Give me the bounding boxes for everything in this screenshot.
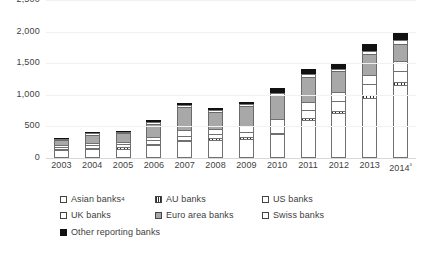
y-axis-tick-label: 1,000 [16,90,40,99]
bar-segment-us [301,110,316,118]
legend-row: Asian banks4AU banksUS banks [0,194,422,210]
bar-segment-other [362,44,377,51]
plot-area: 05001,0001,5002,0002,500 200320042005200… [0,0,422,190]
x-axis-tick-label-2006: 2006 [138,160,169,171]
bar-segment-euro [301,77,316,102]
legend-label: Asian banks [71,194,121,204]
legend-swatch-icon [155,212,162,219]
bar-segment-uk [331,92,346,101]
bar-2003[interactable] [54,138,69,158]
bar-slot [77,0,108,158]
gridline [46,63,416,64]
bar-segment-asian [116,149,131,158]
bar-2008[interactable] [208,108,223,158]
gridline [46,126,416,127]
legend-label: UK banks [71,210,111,220]
legend-item-swiss-banks[interactable]: Swiss banks [262,210,324,220]
x-axis: 2003200420052006200720082009201020112012… [46,160,416,180]
gridline [46,95,416,96]
bar-segment-uk [270,119,285,126]
bar-slot [108,0,139,158]
footnote-marker: 4 [121,194,124,204]
legend-label: Other reporting banks [71,227,160,237]
gridline [46,0,416,1]
bar-segment-asian [393,85,408,158]
x-axis-tick-label-2014: 2014³ [385,160,416,174]
x-axis-tick-label-2004: 2004 [77,160,108,171]
stacked-bar-chart: 05001,0001,5002,0002,500 200320042005200… [0,0,422,267]
y-axis: 05001,0001,5002,0002,500 [0,0,44,190]
legend-label: US banks [273,194,313,204]
bar-segment-uk [362,75,377,85]
bar-segment-euro [393,44,408,61]
bar-segment-euro [116,133,131,142]
bar-segment-euro [362,54,377,75]
bar-slot [138,0,169,158]
bar-segment-us [393,71,408,82]
bar-2010[interactable] [270,88,285,158]
legend-item-uk-banks[interactable]: UK banks [60,210,111,220]
y-axis-tick-label: 1,500 [16,58,40,67]
bar-segment-euro [270,95,285,118]
bar-slot [354,0,385,158]
bar-group [46,0,416,158]
bar-segment-us [362,84,377,94]
bar-segment-asian [85,149,100,158]
x-axis-tick-label-2011: 2011 [293,160,324,171]
bar-segment-asian [146,145,161,158]
y-axis-tick-label: 500 [24,121,40,130]
bar-segment-asian [270,134,285,158]
bar-2012[interactable] [331,64,346,158]
bar-2009[interactable] [239,102,254,158]
legend-label: Swiss banks [273,210,324,220]
bar-segment-asian [331,113,346,158]
bar-slot [200,0,231,158]
legend-row: Other reporting banks [0,227,422,243]
bar-slot [262,0,293,158]
legend-swatch-icon [262,212,269,219]
y-axis-tick-label: 2,500 [16,0,40,4]
chart-legend: Asian banks4AU banksUS banksUK banksEuro… [0,194,422,260]
bar-2004[interactable] [85,132,100,158]
legend-row: UK banksEuro area banksSwiss banks [0,210,422,226]
bars-container [46,0,416,158]
bar-segment-uk [301,102,316,110]
x-axis-tick-label-2008: 2008 [200,160,231,171]
x-axis-tick-label-2012: 2012 [323,160,354,171]
x-axis-tick-label-2007: 2007 [169,160,200,171]
bar-segment-euro [239,106,254,126]
bar-segment-other [393,32,408,40]
bar-slot [323,0,354,158]
bar-2005[interactable] [116,131,131,158]
legend-label: AU banks [166,194,206,204]
legend-item-asian-banks[interactable]: Asian banks4 [60,194,124,204]
bar-slot [46,0,77,158]
bar-slot [169,0,200,158]
x-axis-tick-label-2010: 2010 [262,160,293,171]
footnote-marker: ³ [410,162,412,168]
bar-segment-asian [54,150,69,158]
legend-item-other-reporting-banks[interactable]: Other reporting banks [60,227,160,237]
legend-swatch-icon [60,229,67,236]
y-axis-tick-label: 2,000 [16,27,40,36]
x-axis-tick-label-2013: 2013 [354,160,385,171]
legend-item-euro-area-banks[interactable]: Euro area banks [155,210,234,220]
legend-swatch-icon [155,196,162,203]
bar-slot [293,0,324,158]
x-axis-tick-label-2009: 2009 [231,160,262,171]
legend-label: Euro area banks [166,210,234,220]
bar-segment-asian [177,141,192,158]
x-axis-tick-label-2003: 2003 [46,160,77,171]
bar-segment-us [331,101,346,110]
axis-baseline [46,158,416,159]
bar-slot [385,0,416,158]
bar-segment-asian [362,98,377,158]
bar-2011[interactable] [301,69,316,158]
bar-segment-asian [208,140,223,158]
bar-segment-euro [85,135,100,144]
bar-2007[interactable] [177,103,192,158]
legend-item-us-banks[interactable]: US banks [262,194,313,204]
y-axis-tick-label: 0 [35,153,40,162]
legend-item-au-banks[interactable]: AU banks [155,194,206,204]
bar-2013[interactable] [362,44,377,158]
